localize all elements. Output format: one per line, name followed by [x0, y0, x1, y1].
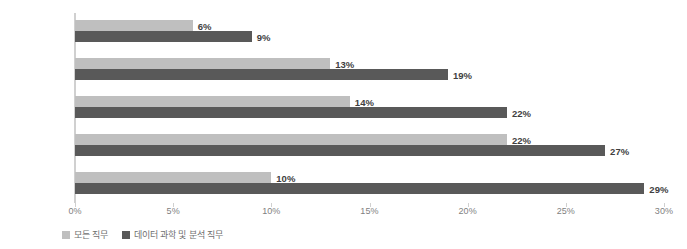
bar-row: 10%: [75, 172, 664, 183]
category-group: 자료 조사10%29%: [75, 172, 664, 194]
category-group: 글쓰기22%27%: [75, 134, 664, 156]
category-group: 팀워크13%19%: [75, 58, 664, 80]
bar-value-label: 22%: [507, 107, 531, 118]
legend-swatch-icon: [62, 231, 70, 239]
category-group: 문제 해결 능력14%22%: [75, 96, 664, 118]
bar-all-jobs[interactable]: [75, 172, 271, 183]
x-axis-tick-label: 10%: [262, 206, 280, 216]
bar-row: 13%: [75, 58, 664, 69]
x-axis-tick-label: 25%: [557, 206, 575, 216]
bar-row: 22%: [75, 107, 664, 118]
bar-data-science-jobs[interactable]: [75, 145, 605, 156]
bar-value-label: 6%: [193, 20, 212, 31]
bar-value-label: 14%: [350, 96, 374, 107]
bar-value-label: 22%: [507, 134, 531, 145]
x-axis-tick-label: 20%: [458, 206, 476, 216]
x-axis-tick-label: 5%: [167, 206, 180, 216]
x-axis-tick-label: 30%: [655, 206, 673, 216]
bar-value-label: 10%: [271, 172, 295, 183]
bar-row: 27%: [75, 145, 664, 156]
bar-value-label: 9%: [252, 31, 271, 42]
bar-value-label: 19%: [448, 69, 472, 80]
bar-all-jobs[interactable]: [75, 20, 193, 31]
bar-data-science-jobs[interactable]: [75, 31, 252, 42]
x-axis-tick-label: 0%: [68, 206, 81, 216]
bar-row: 14%: [75, 96, 664, 107]
bar-data-science-jobs[interactable]: [75, 107, 507, 118]
bar-data-science-jobs[interactable]: [75, 183, 644, 194]
bar-all-jobs[interactable]: [75, 134, 507, 145]
legend-swatch-icon: [122, 231, 130, 239]
bar-row: 6%: [75, 20, 664, 31]
bar-value-label: 27%: [605, 145, 629, 156]
bar-row: 29%: [75, 183, 664, 194]
legend-label: 데이터 과학 및 분석 직무: [134, 228, 223, 241]
x-axis-tick-label: 15%: [360, 206, 378, 216]
bar-chart: 창의력6%9%팀워크13%19%문제 해결 능력14%22%글쓰기22%27%자…: [0, 0, 687, 249]
bar-row: 19%: [75, 69, 664, 80]
plot-area: 창의력6%9%팀워크13%19%문제 해결 능력14%22%글쓰기22%27%자…: [75, 13, 664, 203]
bar-all-jobs[interactable]: [75, 58, 330, 69]
bar-value-label: 13%: [330, 58, 354, 69]
legend-label: 모든 직무: [74, 228, 108, 241]
category-group: 창의력6%9%: [75, 20, 664, 42]
bar-all-jobs[interactable]: [75, 96, 350, 107]
legend-item[interactable]: 데이터 과학 및 분석 직무: [122, 228, 223, 241]
chart-legend: 모든 직무데이터 과학 및 분석 직무: [62, 228, 223, 241]
bar-row: 9%: [75, 31, 664, 42]
bar-value-label: 29%: [644, 183, 668, 194]
bar-row: 22%: [75, 134, 664, 145]
bar-data-science-jobs[interactable]: [75, 69, 448, 80]
legend-item[interactable]: 모든 직무: [62, 228, 108, 241]
